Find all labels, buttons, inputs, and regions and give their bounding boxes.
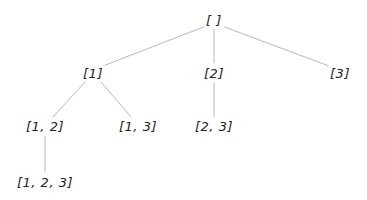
node-3: [3] [328, 66, 352, 81]
node-empty-set: [ ] [204, 13, 224, 28]
edge-n1-n13 [101, 82, 131, 117]
node-1: [1] [81, 66, 105, 81]
node-2: [2] [202, 66, 226, 81]
edge-n1-n12 [53, 82, 85, 117]
subset-tree-diagram: [ ] [1] [2] [3] [1, 2] [1, 3] [2, 3] [1,… [0, 0, 367, 200]
node-1-3: [1, 3] [117, 119, 159, 134]
node-1-2: [1, 2] [24, 119, 66, 134]
node-1-2-3: [1, 2, 3] [15, 175, 75, 190]
edge-root-n1 [103, 26, 206, 66]
node-2-3: [2, 3] [193, 119, 235, 134]
tree-edges [0, 0, 367, 200]
edge-root-n3 [222, 26, 329, 66]
